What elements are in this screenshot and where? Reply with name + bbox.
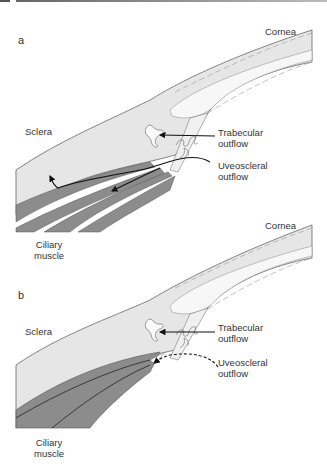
- uveoscleral-arrow-b: [154, 354, 218, 367]
- sclera-label-a: Sclera: [25, 126, 52, 137]
- ciliary-muscle-label-a: Ciliary muscle: [34, 239, 64, 261]
- cornea-label-b: Cornea: [265, 220, 296, 231]
- panel-b-letter: b: [18, 289, 24, 301]
- cornea-label-a: Cornea: [265, 26, 296, 37]
- trabecular-outflow-label-b: Trabecular outflow: [218, 322, 263, 344]
- panel-a-illustration: [16, 30, 312, 232]
- trabecular-outflow-label-a: Trabecular outflow: [218, 127, 263, 149]
- sclera-label-b: Sclera: [25, 326, 52, 337]
- panel-a-letter: a: [18, 34, 24, 46]
- eye-outflow-diagram: [0, 0, 327, 469]
- ciliary-muscle-label-b: Ciliary muscle: [34, 437, 64, 459]
- uveoscleral-outflow-label-b: Uveoscleral outflow: [218, 357, 268, 379]
- uveoscleral-outflow-label-a: Uveoscleral outflow: [218, 160, 268, 182]
